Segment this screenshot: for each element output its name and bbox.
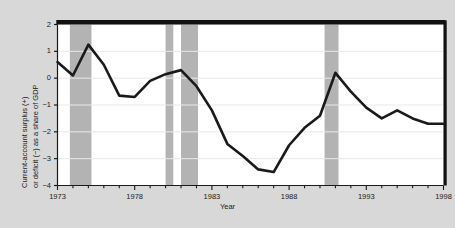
y-tick-label--3: −3 xyxy=(31,154,51,163)
x-tick-label-1983: 1983 xyxy=(192,192,232,201)
y-tick-label-1: 1 xyxy=(31,46,51,55)
chart-figure: Current-account surplus (+) or deficit (… xyxy=(0,0,455,228)
y-tick-label--4: −4 xyxy=(31,181,51,190)
y-tick-label-0: 0 xyxy=(31,73,51,82)
x-tick-label-1973: 1973 xyxy=(38,192,78,201)
x-tick-label-1998: 1998 xyxy=(424,192,455,201)
y-tick-label-2: 2 xyxy=(31,20,51,29)
x-tick-label-1988: 1988 xyxy=(269,192,309,201)
x-tick-label-1978: 1978 xyxy=(115,192,155,201)
y-tick-label--1: −1 xyxy=(31,100,51,109)
y-tick-label--2: −2 xyxy=(31,127,51,136)
x-tick-label-1993: 1993 xyxy=(346,192,386,201)
